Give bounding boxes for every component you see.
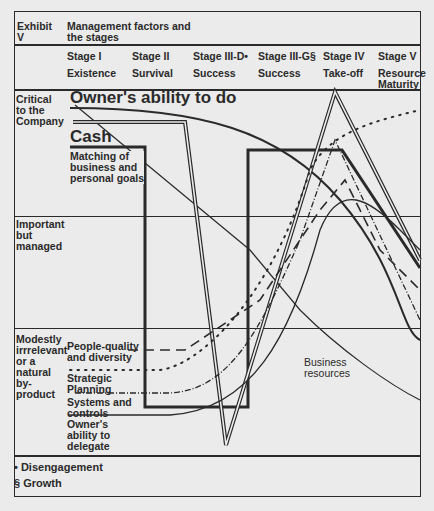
factor-matching: Matching ofbusiness andpersonal goals [70, 151, 144, 184]
strategic-line [70, 110, 420, 370]
people-line [128, 180, 420, 350]
factor-strategic: StrategicPlanning [67, 373, 112, 395]
factor-cash: Cash [70, 128, 112, 146]
footnote-disengagement: • Disengagement [14, 462, 103, 473]
factor-delegate: Owner'sability todelegate [67, 419, 110, 452]
chart-lines [0, 0, 434, 511]
factor-systems: Systems andcontrols [67, 397, 132, 419]
factor-people: People-qualityand diversity [67, 341, 139, 363]
factor-owner-do: Owner's ability to do [70, 89, 237, 107]
footnote-growth: § Growth [14, 478, 62, 489]
factor-resources: Businessresources [304, 357, 350, 379]
matching-line [70, 147, 420, 407]
